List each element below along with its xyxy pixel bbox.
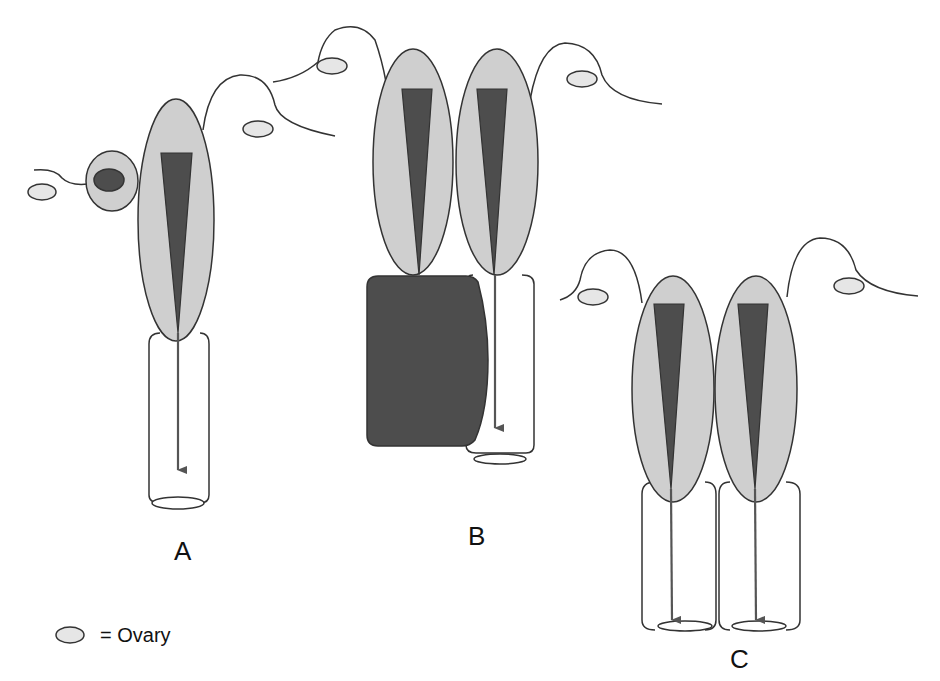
- panel-a-lobe-core: [94, 169, 124, 191]
- reproductive-diagram: A B: [0, 0, 940, 681]
- panel-c-bracket-right-outer: [786, 482, 800, 630]
- panel-b-dark-block: [367, 276, 488, 446]
- panel-c-bracket-left-inner: [705, 482, 716, 630]
- panel-c-arrow-left: [671, 489, 672, 620]
- panel-c-opening-right: [732, 621, 786, 631]
- panel-c: C: [560, 238, 918, 674]
- panel-b-right-duct: [530, 43, 662, 104]
- panel-a-tube-opening: [152, 497, 204, 509]
- panel-a-label: A: [174, 536, 192, 566]
- ovary-legend-icon: [56, 627, 84, 643]
- panel-b-left-ovary: [317, 58, 347, 74]
- panel-c-opening-left: [658, 621, 712, 631]
- panel-b-tube-opening: [474, 454, 526, 464]
- panel-c-left-ovary: [578, 289, 608, 305]
- panel-a-right-ovary: [243, 121, 273, 137]
- legend: = Ovary: [56, 624, 171, 646]
- panel-b-right-ovary: [567, 71, 597, 87]
- panel-a-left-duct: [34, 170, 88, 185]
- panel-c-bracket-right-inner: [719, 482, 730, 630]
- panel-a-left-ovary: [28, 184, 56, 200]
- panel-c-bracket-left-outer: [642, 482, 655, 630]
- panel-c-arrow-right: [755, 489, 756, 620]
- panel-c-label: C: [730, 644, 749, 674]
- panel-b-label: B: [468, 521, 485, 551]
- panel-a: A: [28, 75, 335, 566]
- panel-c-right-ovary: [834, 278, 864, 294]
- legend-text: = Ovary: [100, 624, 171, 646]
- panel-b: B: [273, 27, 662, 551]
